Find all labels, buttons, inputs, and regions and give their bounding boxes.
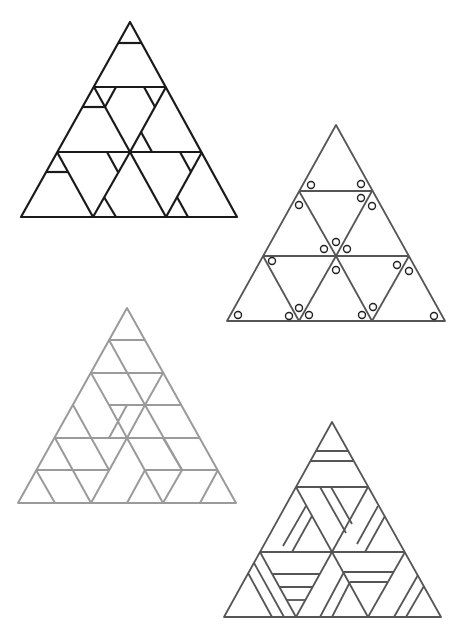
triangle-b [227, 125, 445, 321]
triangle-b-circles [235, 181, 438, 320]
triangle-c [18, 308, 236, 503]
figure-canvas [0, 0, 465, 633]
triangle-a [21, 22, 237, 217]
triangle-d [224, 422, 441, 617]
